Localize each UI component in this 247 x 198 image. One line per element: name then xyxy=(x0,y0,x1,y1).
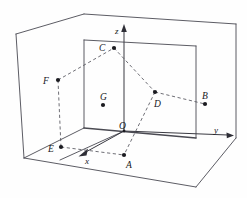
point-dot-G[interactable] xyxy=(101,103,105,107)
y-axis-arrowhead xyxy=(227,133,235,139)
geometry-figure-root: A B C D E F G O x y z xyxy=(0,0,247,198)
point-labels: A B C D E F G O xyxy=(42,43,208,170)
point-dot-C[interactable] xyxy=(112,46,116,50)
point-dot-E[interactable] xyxy=(59,145,63,149)
segment-D-B xyxy=(155,92,205,104)
dashed-connections xyxy=(58,48,205,155)
axis-label-y: y xyxy=(213,125,218,135)
point-label-C: C xyxy=(99,43,106,53)
point-dot-B[interactable] xyxy=(203,102,207,106)
outer-box-bottom-front-edge xyxy=(24,158,196,187)
point-dot-A[interactable] xyxy=(122,153,126,157)
axis-label-x: x xyxy=(84,156,89,166)
segment-F-E xyxy=(58,80,61,147)
segment-D-A xyxy=(124,92,155,155)
point-label-B: B xyxy=(202,91,208,101)
point-label-F: F xyxy=(42,76,49,86)
point-label-G: G xyxy=(100,92,107,102)
outer-box-top-left-edge xyxy=(16,14,84,34)
point-dot-F[interactable] xyxy=(56,78,60,82)
outer-box-left-vertical-edge xyxy=(16,34,24,158)
x-axis-line xyxy=(84,131,124,153)
outer-box-top-back-edge xyxy=(84,14,236,24)
point-dot-D[interactable] xyxy=(153,90,157,94)
outer-box-bottom-right-edge xyxy=(196,138,236,187)
z-axis-arrowhead xyxy=(121,24,127,32)
segment-C-D xyxy=(114,48,155,92)
inner-box-edges xyxy=(24,40,196,160)
axis-label-z: z xyxy=(114,26,119,36)
point-label-E: E xyxy=(47,144,54,154)
point-label-O: O xyxy=(119,121,126,131)
point-label-D: D xyxy=(153,99,161,109)
segment-F-C xyxy=(58,48,114,80)
point-label-A: A xyxy=(125,160,132,170)
geometry-diagram-svg: A B C D E F G O x y z xyxy=(0,0,247,198)
